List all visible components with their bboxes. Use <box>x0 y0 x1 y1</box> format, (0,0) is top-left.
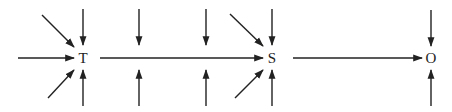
arrow-upper-left-into-s <box>230 14 263 46</box>
flow-diagram: T S O <box>0 0 452 112</box>
arrow-lower-left-into-s <box>235 70 263 98</box>
node-label-o: O <box>426 50 437 66</box>
arrow-lower-left-into-t <box>48 70 74 98</box>
node-label-t: T <box>78 50 87 66</box>
node-label-s: S <box>268 50 276 66</box>
arrow-upper-left-into-t <box>42 15 74 47</box>
